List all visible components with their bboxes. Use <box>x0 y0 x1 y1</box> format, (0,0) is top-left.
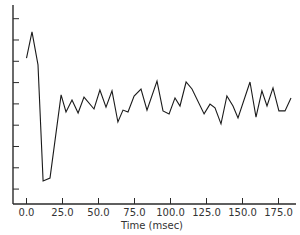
x-tick-label: 125.0 <box>192 207 221 218</box>
signal-line <box>27 32 292 181</box>
x-tick-label: 25.0 <box>51 207 73 218</box>
x-tick-label: 0.0 <box>19 207 35 218</box>
x-tick-label: 100.0 <box>156 207 185 218</box>
x-axis-label: Time (msec) <box>120 220 183 231</box>
x-tick-label: 150.0 <box>228 207 257 218</box>
x-tick-label: 50.0 <box>87 207 109 218</box>
y-axis-ticks <box>13 19 19 189</box>
line-chart: 0.025.050.075.0100.0125.0150.0175.0 Time… <box>0 0 300 235</box>
x-tick-label: 75.0 <box>123 207 145 218</box>
x-axis-ticks: 0.025.050.075.0100.0125.0150.0175.0 <box>19 198 293 218</box>
plot-area: 0.025.050.075.0100.0125.0150.0175.0 <box>13 5 296 218</box>
x-tick-label: 175.0 <box>264 207 293 218</box>
